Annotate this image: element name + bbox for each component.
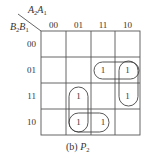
cell-r3-c2: 1 xyxy=(101,117,106,127)
row-headers: 00 01 11 10 xyxy=(27,39,37,127)
row-header-01: 01 xyxy=(27,65,36,75)
cell-r3-c1: 1 xyxy=(76,117,81,127)
cell-r1-c3: 1 xyxy=(125,65,130,75)
cell-r1-c2: 1 xyxy=(101,65,106,75)
cell-r2-c3: 1 xyxy=(125,91,130,101)
column-header-00: 00 xyxy=(49,20,59,30)
karnaugh-map: A2A1 B2B1 00 01 11 10 00 01 11 10 1 1 xyxy=(0,0,153,159)
kmap-grid xyxy=(41,31,140,135)
column-header-01: 01 xyxy=(74,20,83,30)
cell-r2-c1: 1 xyxy=(76,91,81,101)
column-variable-label: A2A1 xyxy=(27,4,47,16)
row-header-11: 11 xyxy=(27,91,36,101)
diagram-caption: (b) P2 xyxy=(66,141,90,153)
cell-values: 1 1 1 1 1 1 xyxy=(76,65,130,127)
column-headers: 00 01 11 10 xyxy=(49,20,133,30)
row-header-00: 00 xyxy=(27,39,37,49)
column-header-10: 10 xyxy=(123,20,133,30)
row-header-10: 10 xyxy=(27,117,37,127)
row-variable-label: B2B1 xyxy=(10,21,29,33)
column-header-11: 11 xyxy=(99,20,108,30)
